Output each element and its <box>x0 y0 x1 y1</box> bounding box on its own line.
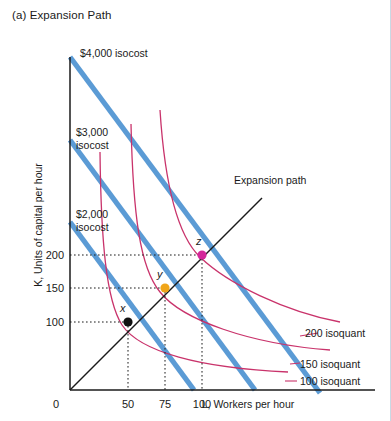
isocost-4000-label: $4,000 isocost <box>80 47 148 59</box>
plot-area: x y z 100 150 200 0 50 75 100 K, Units o… <box>0 0 391 421</box>
point-z-label: z <box>195 235 202 247</box>
expansion-path-label: Expansion path <box>234 174 307 186</box>
x-tick-origin: 0 <box>53 398 59 410</box>
isoquant-100-label: 100 isoquant <box>300 375 360 387</box>
isocost-3000-label-line1: $3,000 <box>76 126 108 138</box>
x-tick-50: 50 <box>122 398 134 410</box>
isocost-2000-label-line1: $2,000 <box>76 208 108 220</box>
point-y-label: y <box>156 268 164 280</box>
point-z-marker <box>197 250 206 259</box>
isocost-3000-label-line2: isocost <box>76 139 109 151</box>
isocost-2000-label-line2: isocost <box>76 221 109 233</box>
expansion-path-figure: (a) Expansion Path <box>0 0 391 421</box>
y-tick-100: 100 <box>46 316 64 328</box>
point-x-label: x <box>119 302 126 314</box>
y-axis-title: K, Units of capital per hour <box>32 163 44 287</box>
x-axis-title: L, Workers per hour <box>202 398 295 410</box>
guide-lines-point-x <box>70 322 128 390</box>
point-x-marker <box>123 317 132 326</box>
isoquant-150-curve <box>131 124 330 350</box>
isoquant-150-label: 150 isoquant <box>300 358 360 370</box>
y-tick-150: 150 <box>46 282 64 294</box>
axis-lines <box>70 57 375 390</box>
point-y-marker <box>160 283 169 292</box>
y-tick-200: 200 <box>46 249 64 261</box>
x-tick-75: 75 <box>159 398 171 410</box>
isoquant-200-label: 200 isoquant <box>305 327 365 339</box>
